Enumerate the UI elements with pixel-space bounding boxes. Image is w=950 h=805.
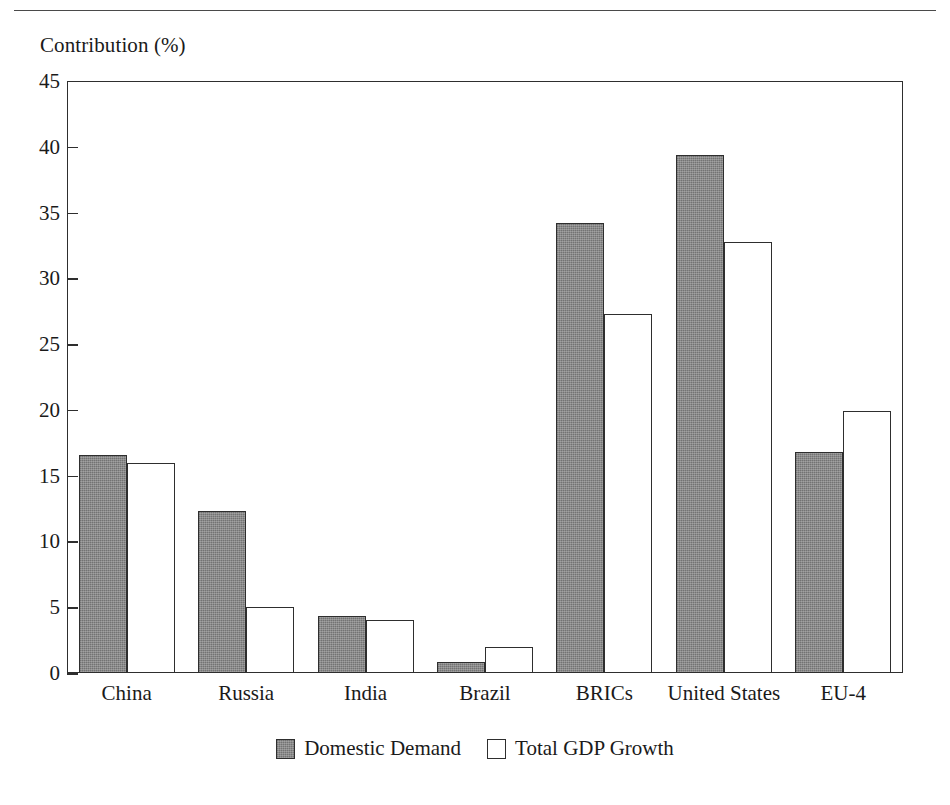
bar-united-states-total-gdp-growth xyxy=(724,242,772,674)
y-axis-tick-labels: 051015202530354045 xyxy=(0,81,60,673)
legend-swatch-icon xyxy=(487,739,506,759)
bar-russia-domestic-demand xyxy=(198,511,246,673)
bar-brazil-domestic-demand xyxy=(437,662,485,673)
y-tick-label: 5 xyxy=(4,595,60,620)
bar-china-domestic-demand xyxy=(79,455,127,673)
y-tick-label: 30 xyxy=(4,266,60,291)
header-rule xyxy=(14,10,936,11)
legend-label: Total GDP Growth xyxy=(515,736,674,761)
y-axis-caption: Contribution (%) xyxy=(40,33,186,58)
bars-layer xyxy=(67,81,903,673)
legend-item-total-gdp-growth: Total GDP Growth xyxy=(487,736,674,761)
x-tick-label: BRICs xyxy=(576,681,633,706)
bar-brazil-total-gdp-growth xyxy=(485,647,533,673)
figure-canvas: Contribution (%) 051015202530354045 Chin… xyxy=(0,0,950,805)
bar-brics-domestic-demand xyxy=(556,223,604,673)
legend-label: Domestic Demand xyxy=(304,736,461,761)
y-tick-label: 0 xyxy=(4,661,60,686)
y-tick-mark xyxy=(67,673,78,675)
y-tick-label: 45 xyxy=(4,69,60,94)
x-axis-category-labels: ChinaRussiaIndiaBrazilBRICsUnited States… xyxy=(67,681,903,715)
x-tick-label: China xyxy=(102,681,152,706)
x-tick-label: United States xyxy=(668,681,781,706)
legend-swatch-icon xyxy=(276,739,295,759)
bar-china-total-gdp-growth xyxy=(127,463,175,673)
bar-eu-4-domestic-demand xyxy=(795,452,843,673)
x-tick-label: India xyxy=(344,681,387,706)
y-tick-label: 10 xyxy=(4,529,60,554)
y-tick-label: 20 xyxy=(4,397,60,422)
chart-legend: Domestic DemandTotal GDP Growth xyxy=(0,736,950,761)
bar-india-total-gdp-growth xyxy=(366,620,414,673)
y-tick-label: 25 xyxy=(4,332,60,357)
x-tick-label: EU-4 xyxy=(821,681,867,706)
y-tick-label: 40 xyxy=(4,134,60,159)
y-tick-label: 15 xyxy=(4,463,60,488)
bar-india-domestic-demand xyxy=(318,616,366,673)
x-tick-label: Russia xyxy=(218,681,274,706)
legend-item-domestic-demand: Domestic Demand xyxy=(276,736,461,761)
x-tick-label: Brazil xyxy=(459,681,510,706)
bar-eu-4-total-gdp-growth xyxy=(843,411,891,673)
y-tick-label: 35 xyxy=(4,200,60,225)
bar-united-states-domestic-demand xyxy=(676,155,724,673)
bar-russia-total-gdp-growth xyxy=(246,607,294,673)
bar-brics-total-gdp-growth xyxy=(604,314,652,673)
